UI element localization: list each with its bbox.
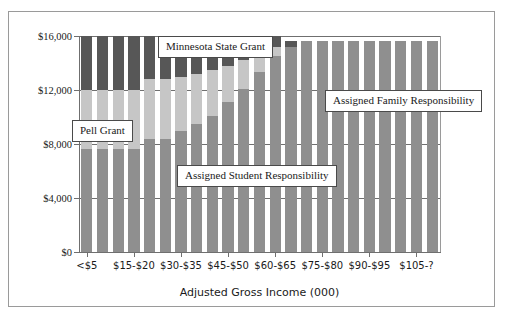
bar-segment [238,89,249,150]
bar-segment [427,149,438,252]
legend-callout-minnesota-state-grant: Minnesota State Grant [158,36,273,58]
bar-segment [285,41,296,46]
bar-segment [97,36,108,90]
bar-segment [395,149,406,252]
bar-column [301,36,312,252]
x-axis-tick-label: $60-$65 [254,260,296,271]
y-tick-mark [74,144,79,145]
bar-column [317,36,328,252]
y-axis-labels: $0$4,000$8,000$12,000$16,000 [0,36,72,252]
bar-segment [81,36,92,90]
chart-figure: $0$4,000$8,000$12,000$16,000 <$5$15-$20$… [0,0,510,328]
bar-segment [207,70,218,116]
y-tick-mark [74,36,79,37]
x-tick-mark [228,252,229,257]
x-axis-tick-label: $15-$20 [113,260,155,271]
bar-segment [222,66,233,102]
bar-segment [348,149,359,252]
bar-segment [175,131,186,150]
bar-segment [113,149,124,252]
bar-segment [97,149,108,252]
bar-column [144,36,155,252]
x-axis-tick-label: $30-$35 [160,260,202,271]
legend-callout-assigned-family-responsibility: Assigned Family Responsibility [325,90,482,112]
y-axis-line [79,36,80,253]
x-tick-mark [369,252,370,257]
bar-column [270,36,281,252]
bar-segment [254,72,265,149]
bar-segment [160,139,171,150]
bar-column [222,36,233,252]
bar-segment [81,149,92,252]
bar-column [332,36,343,252]
y-tick-mark [74,198,79,199]
bar-column [254,36,265,252]
bar-segment [207,116,218,150]
x-tick-mark [416,252,417,257]
bar-column [379,36,390,252]
x-tick-mark [87,252,88,257]
legend-callout-assigned-student-responsibility: Assigned Student Responsibility [177,165,337,187]
x-tick-mark [322,252,323,257]
bar-column [97,36,108,252]
bar-segment [301,41,312,149]
plot-right-border [440,36,441,253]
bar-segment [270,56,281,149]
bar-column [427,36,438,252]
bar-segment [364,149,375,252]
bar-segment [128,149,139,252]
x-tick-mark [181,252,182,257]
x-tick-mark [134,252,135,257]
bar-column [285,36,296,252]
legend-callout-pell-grant: Pell Grant [72,120,133,142]
x-axis-tick-label: $90-$95 [348,260,390,271]
bar-column [81,36,92,252]
bar-segment [144,36,155,79]
bar-column [160,36,171,252]
bar-segment [144,139,155,150]
bar-segment [160,79,171,138]
bar-segment [144,149,155,252]
bar-column [395,36,406,252]
x-axis-tick-label: $75-$80 [301,260,343,271]
bar-column [191,36,202,252]
bar-column [128,36,139,252]
bar-segment [128,36,139,90]
x-axis-tick-label: <$5 [76,260,97,271]
bar-segment [285,47,296,150]
bar-segment [238,60,249,88]
bar-segment [191,124,202,150]
y-tick-mark [74,90,79,91]
bar-segment [411,149,422,252]
y-axis-tick-label: $4,000 [0,193,72,204]
y-axis-tick-label: $8,000 [0,139,72,150]
x-axis-tick-label: $45-$50 [207,260,249,271]
x-tick-mark [275,252,276,257]
y-axis-tick-label: $12,000 [0,85,72,96]
y-tick-mark [74,252,79,253]
bar-column [238,36,249,252]
bar-column [348,36,359,252]
bar-segment [379,149,390,252]
bar-column [411,36,422,252]
y-axis-tick-label: $0 [0,247,72,258]
bar-segment [113,36,124,90]
bar-segment [222,102,233,149]
x-axis-tick-label: $105-? [399,260,433,271]
y-axis-tick-label: $16,000 [0,31,72,42]
bar-segment [144,79,155,138]
plot-area: <$5$15-$20$30-$35$45-$50$60-$65$75-$80$9… [79,36,440,252]
bar-segment [160,149,171,252]
bar-segment [175,77,186,131]
bar-segment [191,74,202,124]
bar-column [175,36,186,252]
x-axis-title: Adjusted Gross Income (000) [79,286,440,299]
bar-column [364,36,375,252]
bar-column [113,36,124,252]
bar-column [207,36,218,252]
